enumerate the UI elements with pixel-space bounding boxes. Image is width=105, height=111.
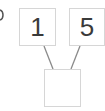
partial-cropped-glyph [0, 10, 3, 20]
connector-right [71, 46, 80, 69]
whole-box[interactable] [44, 69, 81, 107]
connector-left [44, 46, 53, 69]
part-box-left: 1 [19, 8, 56, 46]
part-left-value: 1 [30, 12, 44, 43]
part-box-right: 5 [69, 8, 105, 46]
part-right-value: 5 [80, 12, 94, 43]
